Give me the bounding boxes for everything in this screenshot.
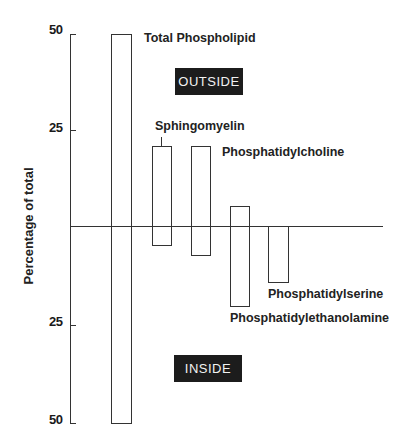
bar-phosphatidylcholine: [191, 146, 211, 256]
y-tick: [70, 423, 76, 424]
bar-phosphatidylethanolamine: [230, 206, 250, 307]
bar-total-phospholipid: [111, 34, 132, 424]
y-tick-label: 25: [49, 314, 62, 329]
y-tick: [70, 34, 76, 35]
inside-region-label: INSIDE: [174, 355, 242, 382]
label-phosphatidylcholine: Phosphatidylcholine: [222, 145, 344, 159]
zero-line: [70, 226, 383, 227]
y-axis-label: Percentage of total: [21, 167, 36, 284]
label-total-phospholipid: Total Phospholipid: [144, 31, 256, 45]
bar-sphingomyelin: [152, 146, 172, 246]
y-tick: [70, 325, 76, 326]
label-phosphatidylserine: Phosphatidylserine: [268, 287, 383, 301]
y-tick-label: 25: [49, 120, 62, 135]
bar-phosphatidylserine: [268, 226, 289, 283]
y-axis: [70, 34, 71, 424]
y-tick-label: 50: [49, 22, 62, 37]
label-phosphatidylethanolamine: Phosphatidylethanolamine: [230, 311, 389, 325]
y-tick: [70, 130, 76, 131]
label-sphingomyelin: Sphingomyelin: [155, 119, 245, 133]
outside-region-label: OUTSIDE: [175, 68, 243, 95]
label-leader: [161, 137, 162, 146]
y-tick-label: 50: [49, 412, 62, 427]
